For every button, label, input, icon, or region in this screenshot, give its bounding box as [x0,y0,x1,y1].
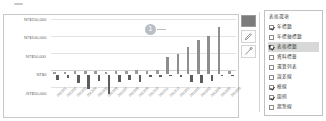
bar[interactable] [211,75,214,82]
y-axis-tick-label: NT$100,000 [2,35,46,40]
callout-badge-1: 1 [145,24,156,35]
bar[interactable] [166,57,169,75]
chart-option-row[interactable]: 表格標題 [268,42,319,52]
callout-leader-line [157,29,166,30]
bar[interactable] [53,72,56,75]
chart-container[interactable]: NT$150,000NT$100,000NT$50,000NT$0-NT$50,… [3,14,239,118]
panel-divider [259,12,260,112]
bar[interactable] [228,71,231,74]
y-axis-tick-label: NT$150,000 [2,17,46,22]
panel-title: 表格選項 [269,14,289,20]
bar[interactable] [190,75,193,82]
bar[interactable] [177,54,180,75]
bar[interactable] [207,36,210,74]
chart-option-row[interactable]: 資料標籤 [268,52,319,62]
chart-option-row[interactable]: 年標軸標題 [268,32,319,42]
chart-option-row[interactable]: 模線 [268,82,319,92]
chart-option-row[interactable]: 趨勢線 [268,102,319,112]
bar[interactable] [125,71,128,75]
bar[interactable] [187,47,190,74]
bar[interactable] [159,75,162,77]
bar[interactable] [218,27,221,74]
checkbox-icon[interactable] [269,55,274,60]
y-axis-tick-label: NT$50,000 [2,54,46,59]
bar[interactable] [84,71,87,74]
chart-plot-area [51,19,236,91]
color-swatch[interactable] [241,15,256,27]
bar[interactable] [87,75,90,90]
checkbox-icon[interactable] [269,95,274,100]
y-axis-tick-label: NT$0 [2,72,46,77]
bar[interactable] [94,71,97,75]
bar[interactable] [221,75,224,76]
drag-tab-handle[interactable] [14,3,23,5]
chart-option-label: 運算列表 [277,64,297,70]
chart-editor-screen: NT$150,000NT$100,000NT$50,000NT$0-NT$50,… [0,0,326,121]
checkbox-icon[interactable] [269,85,274,90]
chart-option-label: 表格標題 [277,44,297,50]
bar[interactable] [128,75,131,81]
checkbox-icon[interactable] [269,65,274,70]
chart-option-row[interactable]: 誤差線 [268,72,319,82]
chart-options-list[interactable]: 年標題年標軸標題表格標題資料標籤運算列表誤差線模線圖例趨勢線 [268,22,319,112]
bar[interactable] [77,75,80,83]
bar[interactable] [118,75,121,82]
chart-option-label: 圖例 [277,94,287,100]
bar[interactable] [231,75,234,76]
bar[interactable] [149,75,152,78]
chart-options-panel[interactable]: 表格選項 年標題年標軸標題表格標題資料標籤運算列表誤差線模線圖例趨勢線 [264,10,323,116]
bar[interactable] [139,75,142,83]
bar[interactable] [135,70,138,74]
bar[interactable] [169,75,172,77]
chart-option-label: 資料標籤 [277,54,297,60]
chart-option-label: 模線 [277,84,287,90]
y-axis-tick-label: -NT$50,000 [2,91,46,96]
chart-option-label: 誤差線 [277,74,292,80]
bar[interactable] [56,75,59,80]
checkbox-icon[interactable] [269,35,274,40]
pen-icon[interactable] [241,30,256,43]
chart-option-row[interactable]: 圖例 [268,92,319,102]
brush-icon[interactable] [241,45,256,58]
bar[interactable] [200,75,203,84]
bar[interactable] [67,75,70,78]
bar[interactable] [180,75,183,77]
bar[interactable] [197,40,200,74]
checkbox-icon[interactable] [269,25,274,30]
chart-option-label: 年標題 [277,24,292,30]
bar[interactable] [146,71,149,74]
chart-option-row[interactable]: 運算列表 [268,62,319,72]
chart-option-row[interactable]: 年標題 [268,22,319,32]
chart-option-label: 年標軸標題 [277,34,302,40]
chart-option-label: 趨勢線 [277,104,292,110]
bar[interactable] [98,75,101,81]
bar[interactable] [115,71,118,74]
bar-series-group [51,19,236,91]
checkbox-icon[interactable] [269,105,274,110]
checkbox-icon[interactable] [269,75,274,80]
bar[interactable] [74,71,77,74]
